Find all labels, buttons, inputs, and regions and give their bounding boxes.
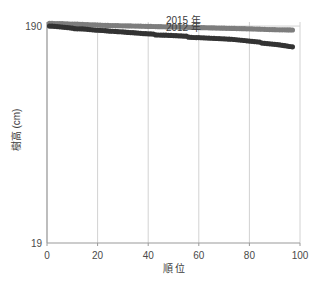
y-axis-title: 樹高 (cm) [10, 109, 22, 152]
y-tick-labels: 19190 [25, 21, 42, 249]
x-tick-label: 100 [292, 250, 309, 261]
chart-canvas: 020406080100 19190 2015 年2012 年 順 位 樹高 (… [0, 0, 322, 285]
series-annotation: 2012 年 [166, 21, 201, 33]
grid-lines [47, 22, 300, 243]
data-point [290, 27, 295, 32]
data-point [290, 44, 295, 49]
x-tick-label: 20 [92, 250, 104, 261]
x-tick-label: 40 [143, 250, 155, 261]
axis-lines [47, 22, 300, 246]
x-axis-title: 順 位 [163, 262, 186, 274]
x-tick-label: 80 [244, 250, 256, 261]
x-tick-labels: 020406080100 [44, 250, 309, 261]
y-tick-label: 190 [25, 21, 42, 32]
series-annotations: 2015 年2012 年 [166, 14, 201, 33]
chart-figure: 020406080100 19190 2015 年2012 年 順 位 樹高 (… [0, 0, 322, 285]
x-tick-label: 0 [44, 250, 50, 261]
y-tick-label: 19 [31, 238, 43, 249]
x-tick-label: 60 [193, 250, 205, 261]
